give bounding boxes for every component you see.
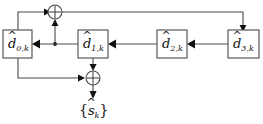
wire-tap-to-top-adder bbox=[52, 19, 59, 46]
wire-d3-to-d2 bbox=[187, 39, 228, 48]
register-symbol-d3: ^ d bbox=[233, 37, 241, 50]
register-subscript-d2: 2,k bbox=[170, 44, 182, 53]
output-signal-label: {^sk} bbox=[79, 103, 108, 120]
hat-accent-d2: ^ bbox=[162, 30, 171, 41]
register-symbol-d1: ^ d bbox=[83, 37, 91, 50]
hat-accent-d0: ^ bbox=[8, 30, 17, 41]
diagram-canvas bbox=[0, 0, 263, 124]
output-symbol: ^s bbox=[88, 104, 95, 117]
register-label-d1: ^ d 1,k bbox=[83, 37, 104, 53]
adder-top[interactable] bbox=[48, 5, 62, 19]
wire-d0-to-top-adder bbox=[18, 9, 51, 30]
register-label-d3: ^ d 3,k bbox=[233, 37, 254, 53]
register-symbol-d2: ^ d bbox=[162, 37, 170, 50]
register-subscript-d3: 3,k bbox=[241, 44, 253, 53]
hat-accent-d1: ^ bbox=[83, 30, 92, 41]
wire-d0-to-bottom-adder bbox=[18, 58, 85, 81]
register-subscript-d1: 1,k bbox=[91, 44, 103, 53]
register-symbol-d0: ^ d bbox=[8, 37, 16, 50]
register-label-d2: ^ d 2,k bbox=[162, 37, 183, 53]
hat-accent-d3: ^ bbox=[233, 30, 242, 41]
wire-d2-to-d1 bbox=[108, 39, 157, 48]
adder-bottom[interactable] bbox=[86, 71, 100, 85]
feedback-shift-register-diagram: ^ d 0,k ^ d 1,k ^ d 2,k ^ d 3,k {^sk} bbox=[0, 0, 263, 124]
hat-accent-output: ^ bbox=[86, 97, 95, 108]
register-label-d0: ^ d 0,k bbox=[8, 37, 29, 53]
wire-d1-to-bottom-adder bbox=[90, 58, 97, 71]
register-subscript-d0: 0,k bbox=[16, 44, 28, 53]
output-close-brace: } bbox=[99, 102, 108, 118]
